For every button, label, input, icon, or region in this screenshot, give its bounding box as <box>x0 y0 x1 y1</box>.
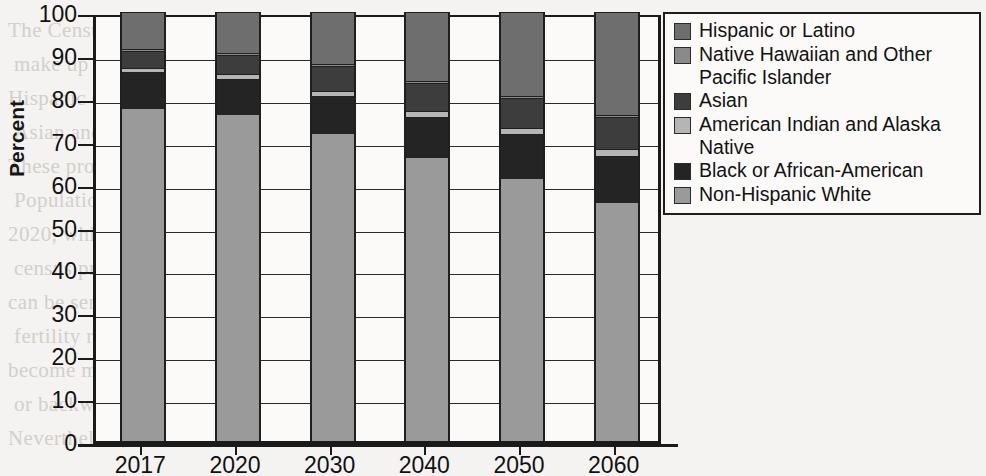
y-tick-mark <box>78 101 93 103</box>
bar-2050 <box>499 12 545 441</box>
legend-label: Hispanic or Latino <box>699 19 855 42</box>
legend-swatch-icon <box>674 163 691 180</box>
gridline <box>96 232 658 233</box>
bar-2030 <box>310 12 356 441</box>
bar-segment <box>122 51 164 68</box>
bar-segment <box>406 158 448 441</box>
legend: Hispanic or LatinoNative Hawaiian and Ot… <box>663 12 981 215</box>
y-tick-mark <box>78 315 93 317</box>
bar-segment <box>501 134 543 179</box>
bar-segment <box>596 156 638 203</box>
x-tick-label: 2030 <box>285 452 375 476</box>
legend-swatch-icon <box>674 117 691 134</box>
legend-label: Non-Hispanic White <box>699 183 871 206</box>
stacked-bar-chart: Percent 0102030405060708090100 201720202… <box>0 0 986 476</box>
y-tick-label: 40 <box>25 260 77 283</box>
y-tick-mark <box>78 401 93 403</box>
legend-item[interactable]: American Indian and Alaska Native <box>671 113 975 159</box>
x-tick-label: 2060 <box>569 452 659 476</box>
legend-label: American Indian and Alaska Native <box>699 113 975 159</box>
bar-segment <box>312 12 354 63</box>
legend-label: Black or African-American <box>699 159 923 182</box>
bar-segment <box>406 83 448 111</box>
legend-swatch-icon <box>674 23 691 40</box>
bar-2040 <box>404 12 450 441</box>
y-tick-mark <box>78 272 93 274</box>
bar-segment <box>596 12 638 115</box>
bar-segment <box>217 12 259 53</box>
plot-area <box>93 15 661 444</box>
bar-segment <box>312 66 354 92</box>
x-tick-label: 2017 <box>95 452 185 476</box>
bar-segment <box>501 98 543 128</box>
y-tick-label: 0 <box>25 432 77 455</box>
bar-segment <box>406 12 448 81</box>
bar-segment <box>122 72 164 108</box>
legend-item[interactable]: Asian <box>671 89 975 113</box>
y-tick-label: 30 <box>25 303 77 326</box>
bar-2017 <box>120 12 166 441</box>
bar-segment <box>596 117 638 149</box>
bar-segment <box>122 109 164 441</box>
y-tick-mark <box>78 144 93 146</box>
legend-label: Asian <box>699 89 748 112</box>
bar-segment <box>217 115 259 441</box>
bar-segment <box>501 179 543 441</box>
x-axis-line <box>78 444 678 447</box>
y-tick-label: 90 <box>25 46 77 69</box>
gridline <box>96 60 658 61</box>
y-tick-mark <box>78 187 93 189</box>
bar-segment <box>217 79 259 115</box>
y-tick-label: 70 <box>25 132 77 155</box>
legend-item[interactable]: Hispanic or Latino <box>671 19 975 43</box>
legend-swatch-icon <box>674 47 691 64</box>
gridline <box>96 146 658 147</box>
bar-segment <box>312 96 354 135</box>
y-tick-label: 50 <box>25 218 77 241</box>
bar-segment <box>217 55 259 74</box>
bar-segment <box>312 134 354 441</box>
x-tick-label: 2040 <box>379 452 469 476</box>
y-tick-mark <box>78 358 93 360</box>
gridline <box>96 360 658 361</box>
x-tick-label: 2020 <box>190 452 280 476</box>
y-tick-label: 100 <box>25 3 77 26</box>
legend-swatch-icon <box>674 187 691 204</box>
gridline <box>96 103 658 104</box>
bar-segment <box>501 12 543 96</box>
y-tick-label: 20 <box>25 346 77 369</box>
bar-segment <box>406 117 448 158</box>
bar-segment <box>122 12 164 48</box>
bar-segment <box>596 203 638 441</box>
bar-2020 <box>215 12 261 441</box>
legend-label: Native Hawaiian and Other Pacific Island… <box>699 43 932 89</box>
y-tick-mark <box>78 15 93 17</box>
legend-item[interactable]: Black or African-American <box>671 159 975 183</box>
y-tick-label: 80 <box>25 89 77 112</box>
x-tick-label: 2050 <box>474 452 564 476</box>
y-tick-mark <box>78 230 93 232</box>
y-tick-mark <box>78 58 93 60</box>
legend-item[interactable]: Native Hawaiian and Other Pacific Island… <box>671 43 975 89</box>
legend-item[interactable]: Non-Hispanic White <box>671 183 975 207</box>
gridline <box>96 189 658 190</box>
legend-swatch-icon <box>674 93 691 110</box>
y-tick-label: 60 <box>25 175 77 198</box>
bar-2060 <box>594 12 640 441</box>
y-tick-label: 10 <box>25 389 77 412</box>
gridline <box>96 317 658 318</box>
gridline <box>96 403 658 404</box>
gridline <box>96 274 658 275</box>
